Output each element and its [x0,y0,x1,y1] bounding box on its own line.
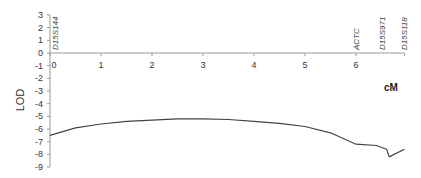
marker-label: D15S118 [400,17,409,50]
marker-label: D15S144 [51,16,60,50]
y-tick-label: -9 [35,162,43,172]
y-tick-label: -4 [35,99,43,109]
y-tick-label: -8 [35,149,43,159]
x-tick-label: 0 [51,60,56,70]
x-tick-label: 1 [98,60,103,70]
lod-curve [50,119,404,157]
y-tick-label: -5 [35,111,43,121]
y-tick-label: -2 [35,73,43,83]
y-tick-label: -3 [35,86,43,96]
marker-label: ACTC [352,28,361,51]
x-tick-label: 3 [200,60,205,70]
x-tick-label: 4 [251,60,256,70]
y-tick-label: -6 [35,124,43,134]
y-axis-title: LOD [14,89,26,112]
x-axis-title: cM [384,82,398,93]
y-tick-label: 0 [38,48,43,58]
y-tick-label: -1 [35,61,43,71]
x-tick-label: 5 [302,60,307,70]
lod-chart: 3210-1-2-3-4-5-6-7-8-90123456LODcMD15S14… [0,0,421,178]
marker-label: D15S971 [378,17,387,50]
x-tick-label: 2 [149,60,154,70]
y-tick-label: -7 [35,137,43,147]
x-tick-label: 6 [353,60,358,70]
y-tick-label: 1 [38,35,43,45]
y-tick-label: 3 [38,10,43,20]
y-tick-label: 2 [38,23,43,33]
